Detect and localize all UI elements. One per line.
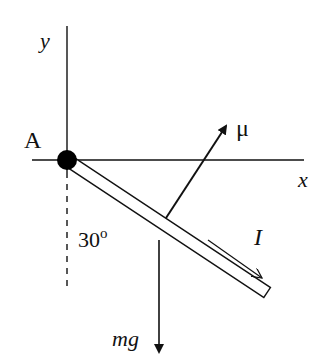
angle-label: 30o (78, 226, 108, 251)
x-axis-label: x (298, 169, 308, 191)
current-label: I (254, 225, 262, 249)
y-axis-label: y (40, 30, 50, 52)
diagram-canvas: y x A 30o μ I mg (0, 0, 331, 358)
pivot-dot (57, 150, 77, 170)
pivot-label: A (24, 128, 41, 152)
angle-value: 30 (78, 227, 100, 252)
mu-label: μ (236, 116, 249, 140)
mu-arrow (166, 126, 226, 218)
degree-symbol: o (100, 225, 108, 241)
diagram-graphics (0, 0, 331, 358)
weight-label: mg (112, 328, 139, 350)
